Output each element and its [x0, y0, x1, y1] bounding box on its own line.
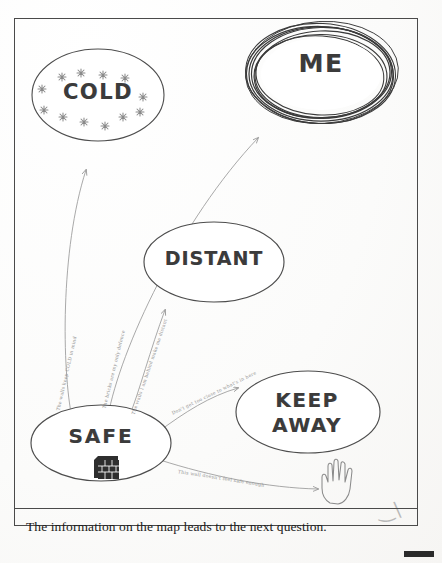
worksheet-frame [14, 18, 418, 526]
caption-text: The information on the map leads to the … [14, 519, 327, 535]
caption-bar: The information on the map leads to the … [14, 508, 418, 544]
worksheet-page: COLD ME DISTANT SAFE KEEP AWAY The walls… [0, 0, 442, 563]
page-corner-mark [404, 551, 434, 557]
